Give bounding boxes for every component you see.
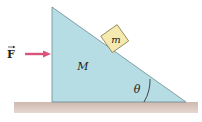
ground [14,102,198,113]
wedge-mass-label: M [76,60,89,73]
block-mass-label: m [111,34,120,45]
force-arrow [25,51,51,58]
incline-diagram: m M θ F [0,0,202,122]
wedge [52,7,186,102]
angle-label: θ [134,83,141,96]
force-label: F [7,48,15,61]
